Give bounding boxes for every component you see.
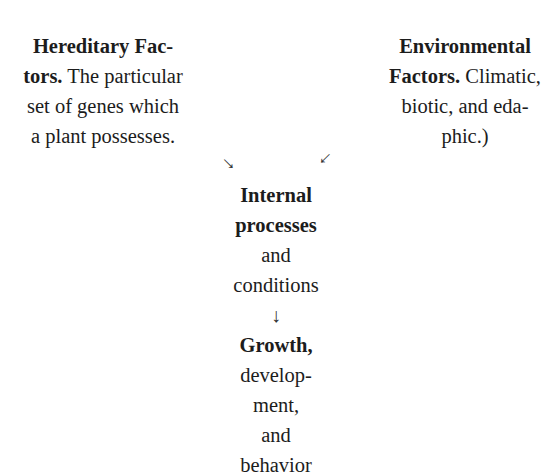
hereditary-line-2: tors. The particular: [3, 61, 203, 91]
hereditary-line-4: a plant possesses.: [3, 121, 203, 151]
center-flow: Internal processes and conditions ↓ Grow…: [176, 180, 376, 476]
hereditary-line-3: set of genes which: [3, 91, 203, 121]
hereditary-title: Hereditary Fac-: [3, 31, 203, 61]
outcome-line-2: develop-: [176, 360, 376, 390]
environmental-line-3: biotic, and eda-: [365, 91, 554, 121]
arrow-down-left-icon: →: [314, 147, 342, 175]
environmental-line-2: Factors. Climatic,: [365, 61, 554, 91]
arrow-down-icon: ↓: [176, 300, 376, 330]
internal-processes-node: Internal processes and conditions: [176, 180, 376, 300]
environmental-title: Environmental: [365, 31, 554, 61]
outcome-line-3: ment,: [176, 390, 376, 420]
internal-line-3: and: [176, 240, 376, 270]
outcome-line-5: behavior: [176, 450, 376, 476]
outcome-line-1: Growth,: [176, 330, 376, 360]
growth-outcome-node: Growth, develop- ment, and behavior: [176, 330, 376, 476]
internal-line-4: conditions: [176, 270, 376, 300]
environmental-factors-node: Environmental Factors. Climatic, biotic,…: [365, 31, 554, 151]
environmental-line-4: phic.): [365, 121, 554, 151]
arrow-down-right-icon: →: [217, 147, 245, 175]
hereditary-factors-node: Hereditary Fac- tors. The particular set…: [3, 31, 203, 151]
internal-line-2: processes: [176, 210, 376, 240]
internal-line-1: Internal: [176, 180, 376, 210]
outcome-line-4: and: [176, 420, 376, 450]
